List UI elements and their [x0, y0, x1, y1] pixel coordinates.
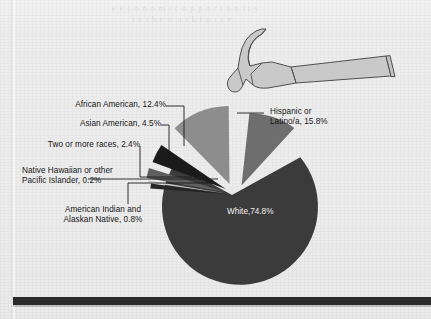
pie-label-white: White,74.8% [227, 207, 273, 216]
bottom-rule [13, 297, 431, 305]
bottom-rule-shadow [13, 305, 431, 307]
pie-chart [147, 106, 318, 285]
callout-label-hispanic: Hispanic or Latino/a, 15.8% [270, 107, 390, 126]
chart-artwork [0, 0, 431, 319]
pie-slice-white [162, 157, 318, 284]
callout-label-african-american: African American, 12.4% [46, 100, 166, 110]
figure-page: e e c o n o m i c o p p o r t u n i t y … [0, 0, 431, 319]
claw-hammer-icon [227, 29, 395, 92]
callout-label-american-indian: American Indian and Alaskan Native, 0.8% [42, 205, 164, 224]
callout-label-native-hawaiian: Native Hawaiian or other Pacific Islande… [22, 166, 152, 185]
callout-label-asian-american: Asian American, 4.5% [46, 119, 161, 129]
callout-label-two-or-more-races: Two or more races, 2.4% [22, 140, 140, 150]
